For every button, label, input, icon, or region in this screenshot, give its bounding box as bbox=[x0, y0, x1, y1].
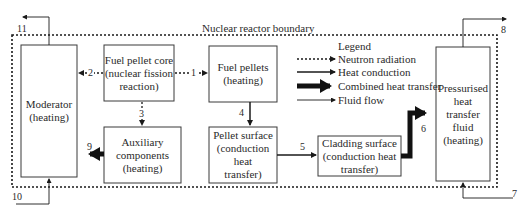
cladding-line2: (conduction heat bbox=[323, 150, 397, 163]
pellet-surface-line1: Pellet surface bbox=[213, 129, 273, 142]
flow-5-number: 5 bbox=[300, 141, 305, 152]
legend-neutron-label: Neutron radiation bbox=[338, 53, 416, 66]
fluid-line4: fluid bbox=[453, 121, 474, 134]
flow-1-number: 1 bbox=[190, 67, 197, 78]
fuel-core-line3: reaction) bbox=[119, 80, 158, 93]
cladding-line1: Cladding surface bbox=[322, 137, 397, 150]
auxiliary-line1: Auxiliary bbox=[121, 136, 163, 149]
pellet-surface-line2: (conduction heat bbox=[209, 142, 277, 168]
legend-conduction-label: Heat conduction bbox=[338, 66, 410, 79]
moderator-label: Moderator (heating) bbox=[21, 45, 77, 177]
moderator-line1: Moderator bbox=[26, 98, 72, 111]
boundary-label: Nuclear reactor boundary bbox=[202, 22, 314, 35]
cladding-line3: transfer) bbox=[341, 163, 378, 176]
fuel-pellets-line2: (heating) bbox=[223, 74, 263, 87]
flow-11-arrow bbox=[23, 17, 49, 45]
fluid-line3: transfer bbox=[446, 108, 480, 121]
flow-6-number: 6 bbox=[421, 123, 426, 134]
flow-7-arrow bbox=[463, 183, 513, 198]
fluid-line5: (heating) bbox=[443, 134, 483, 147]
legend-fluid-label: Fluid flow bbox=[338, 94, 384, 107]
fuel-core-line1: Fuel pellet core bbox=[105, 54, 173, 67]
flow-10-number: 10 bbox=[12, 191, 22, 202]
flow-8-number: 8 bbox=[501, 24, 506, 35]
auxiliary-line2: components bbox=[116, 149, 169, 162]
fuel-core-label: Fuel pellet core (nuclear fission reacti… bbox=[104, 45, 174, 101]
flow-2-number: 2 bbox=[87, 67, 94, 78]
flow-8-arrow bbox=[463, 19, 506, 47]
fluid-label: Pressurised heat transfer fluid (heating… bbox=[436, 47, 490, 181]
flow-6-arrow bbox=[401, 113, 425, 156]
moderator-line2: (heating) bbox=[29, 111, 69, 124]
flow-9-number: 9 bbox=[87, 141, 92, 152]
fluid-line1: Pressurised bbox=[438, 82, 488, 95]
pellet-surface-label: Pellet surface (conduction heat transfer… bbox=[209, 127, 277, 183]
auxiliary-label: Auxiliary components (heating) bbox=[104, 127, 181, 183]
fuel-pellets-label: Fuel pellets (heating) bbox=[209, 46, 277, 102]
auxiliary-line3: (heating) bbox=[123, 162, 163, 175]
flow-7-number: 7 bbox=[512, 188, 517, 199]
fuel-pellets-line1: Fuel pellets bbox=[217, 61, 268, 74]
flow-3-number: 3 bbox=[139, 108, 144, 119]
legend-combined-label: Combined heat transfer bbox=[338, 80, 441, 93]
flow-11-number: 11 bbox=[17, 23, 27, 34]
flow-4-number: 4 bbox=[239, 107, 244, 118]
pellet-surface-line3: transfer) bbox=[224, 168, 261, 181]
legend-title: Legend bbox=[338, 40, 371, 53]
fluid-line2: heat bbox=[454, 95, 472, 108]
fuel-core-line2: (nuclear fission bbox=[105, 67, 173, 80]
cladding-label: Cladding surface (conduction heat transf… bbox=[318, 136, 401, 176]
